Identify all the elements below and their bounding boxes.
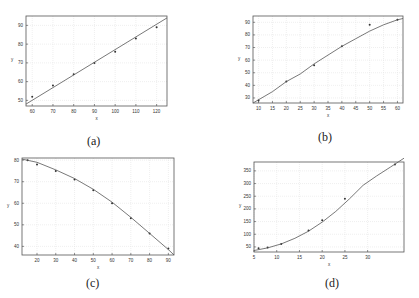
svg-text:90: 90 — [166, 258, 172, 263]
chart-d: 5101520253050100150200250300350xy — [210, 150, 419, 298]
svg-text:y: y — [11, 57, 14, 62]
svg-text:15: 15 — [270, 106, 276, 111]
svg-text:90: 90 — [245, 20, 251, 25]
caption-d: (d) — [325, 276, 339, 291]
svg-text:70: 70 — [50, 109, 56, 114]
svg-text:120: 120 — [153, 109, 161, 114]
svg-text:110: 110 — [132, 109, 140, 114]
svg-text:70: 70 — [18, 60, 24, 65]
svg-text:80: 80 — [71, 109, 77, 114]
svg-text:60: 60 — [110, 258, 116, 263]
svg-text:25: 25 — [342, 255, 348, 260]
svg-text:200: 200 — [243, 206, 251, 211]
svg-text:35: 35 — [325, 106, 331, 111]
svg-text:50: 50 — [14, 222, 20, 227]
caption-a: (a) — [87, 134, 100, 149]
caption-b: (b) — [318, 130, 332, 145]
svg-text:50: 50 — [245, 70, 251, 75]
svg-text:50: 50 — [367, 106, 373, 111]
svg-text:150: 150 — [243, 219, 251, 224]
svg-text:30: 30 — [53, 258, 59, 263]
svg-text:20: 20 — [320, 255, 326, 260]
svg-text:80: 80 — [14, 158, 20, 163]
svg-text:y: y — [238, 56, 241, 61]
svg-text:x: x — [327, 113, 330, 118]
chart-b: 101520253035404550556030405060708090xy — [210, 0, 419, 150]
chart-c: 20304050607080904050607080xy — [0, 150, 210, 298]
svg-text:90: 90 — [92, 109, 98, 114]
svg-text:300: 300 — [243, 181, 251, 186]
svg-text:60: 60 — [14, 201, 20, 206]
svg-text:15: 15 — [297, 255, 303, 260]
svg-text:x: x — [328, 262, 331, 267]
svg-text:40: 40 — [14, 244, 20, 249]
svg-text:350: 350 — [243, 168, 251, 173]
svg-text:250: 250 — [243, 194, 251, 199]
svg-text:50: 50 — [246, 244, 252, 249]
svg-text:80: 80 — [147, 258, 153, 263]
svg-text:55: 55 — [381, 106, 387, 111]
svg-text:70: 70 — [128, 258, 134, 263]
svg-text:60: 60 — [18, 79, 24, 84]
caption-c: (c) — [86, 276, 99, 291]
svg-text:100: 100 — [243, 232, 251, 237]
svg-text:40: 40 — [245, 83, 251, 88]
svg-text:40: 40 — [72, 258, 78, 263]
svg-text:50: 50 — [18, 98, 24, 103]
svg-text:40: 40 — [339, 106, 345, 111]
svg-text:10: 10 — [274, 255, 280, 260]
svg-text:20: 20 — [35, 258, 41, 263]
svg-text:y: y — [239, 203, 242, 208]
svg-text:20: 20 — [284, 106, 290, 111]
svg-text:y: y — [7, 203, 10, 208]
svg-text:x: x — [95, 116, 98, 121]
svg-text:70: 70 — [245, 45, 251, 50]
svg-text:80: 80 — [245, 32, 251, 37]
svg-text:30: 30 — [365, 255, 371, 260]
svg-text:x: x — [97, 265, 100, 270]
svg-text:5: 5 — [253, 255, 256, 260]
svg-text:60: 60 — [245, 58, 251, 63]
svg-text:30: 30 — [312, 106, 318, 111]
svg-text:25: 25 — [298, 106, 304, 111]
chart-a: 607080901001101205060708090xy — [0, 0, 210, 150]
svg-text:100: 100 — [111, 109, 119, 114]
svg-text:30: 30 — [245, 95, 251, 100]
svg-text:90: 90 — [18, 23, 24, 28]
svg-text:80: 80 — [18, 42, 24, 47]
svg-text:70: 70 — [14, 179, 20, 184]
svg-text:60: 60 — [395, 106, 401, 111]
svg-text:45: 45 — [353, 106, 359, 111]
svg-text:10: 10 — [256, 106, 262, 111]
svg-text:50: 50 — [91, 258, 97, 263]
svg-text:60: 60 — [30, 109, 36, 114]
